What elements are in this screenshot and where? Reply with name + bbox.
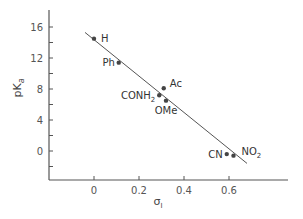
regression-line bbox=[85, 32, 247, 163]
y-tick-label: 8 bbox=[37, 84, 43, 95]
y-tick-label: 16 bbox=[30, 22, 43, 33]
data-point-ph bbox=[117, 60, 121, 64]
data-point-no2 bbox=[231, 153, 235, 157]
point-label: CONH2 bbox=[121, 90, 155, 104]
point-label: Ac bbox=[170, 78, 182, 89]
data-points: HPhAcCONH2OMeCNNO2 bbox=[92, 33, 262, 160]
point-label: Ph bbox=[102, 57, 114, 68]
data-point-cn bbox=[225, 152, 229, 156]
point-label: NO2 bbox=[242, 146, 262, 160]
x-tick-label: 0 bbox=[91, 185, 97, 196]
data-point-conh2 bbox=[157, 93, 161, 97]
axes: 048121600.20.40.6 bbox=[30, 10, 288, 196]
x-axis-title: σI bbox=[153, 195, 162, 210]
y-tick-label: 12 bbox=[30, 53, 43, 64]
point-label: OMe bbox=[155, 105, 178, 116]
x-tick-label: 0.2 bbox=[131, 185, 147, 196]
y-axis-title: pKa bbox=[11, 78, 26, 97]
data-point-ac bbox=[162, 86, 166, 90]
y-tick-label: 4 bbox=[37, 115, 43, 126]
fit-line bbox=[85, 32, 247, 163]
y-tick-label: 0 bbox=[37, 146, 43, 157]
point-label: H bbox=[101, 33, 109, 44]
x-tick-label: 0.6 bbox=[221, 185, 237, 196]
data-point-ome bbox=[164, 98, 168, 102]
x-tick-label: 0.4 bbox=[176, 185, 192, 196]
data-point-h bbox=[92, 36, 96, 40]
scatter-chart: 048121600.20.40.6 HPhAcCONH2OMeCNNO2 σIp… bbox=[0, 0, 303, 219]
point-label: CN bbox=[208, 149, 222, 160]
